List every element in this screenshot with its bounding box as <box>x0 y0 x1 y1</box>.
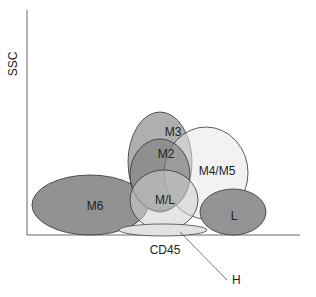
label-L: L <box>231 209 238 223</box>
callout-label-H: H <box>232 273 241 287</box>
label-M6: M6 <box>87 199 104 213</box>
label-M2: M2 <box>158 147 175 161</box>
flow-cytometry-diagram: SSC CD45 M6 M3 M4/M5 M2 M/L L H <box>0 0 316 297</box>
x-axis-label: CD45 <box>150 243 181 257</box>
label-ML: M/L <box>155 193 175 207</box>
callout-line-H <box>180 232 227 280</box>
y-axis-label: SSC <box>6 51 20 76</box>
population-H <box>119 224 207 236</box>
label-M3: M3 <box>165 125 182 139</box>
label-M4M5: M4/M5 <box>199 164 236 178</box>
